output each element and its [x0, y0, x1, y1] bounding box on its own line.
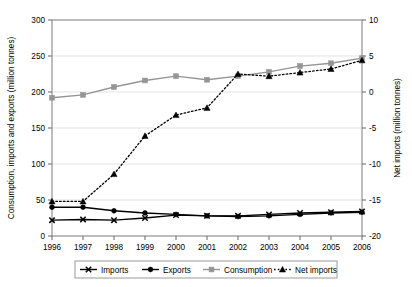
y2-axis-tick-label: 5 [369, 52, 374, 61]
y2-axis-tick-label: -10 [369, 160, 381, 169]
marker-circle [329, 211, 334, 216]
legend-label: Exports [163, 266, 191, 275]
y-axis-tick-label: 0 [40, 232, 45, 241]
x-axis-tick-label: 2003 [260, 243, 279, 252]
marker-circle [360, 210, 365, 215]
y-axis-tick-label: 100 [31, 160, 45, 169]
chart-legend: ImportsExportsConsumptionNet imports [75, 261, 337, 278]
y2-axis-tick-label: 10 [369, 16, 379, 25]
marker-circle [174, 212, 179, 217]
x-axis-tick-label: 2001 [198, 243, 217, 252]
y-axis-tick-label: 150 [31, 124, 45, 133]
line-chart: 050100150200250300-20-15-10-505101996199… [0, 0, 412, 287]
marker-circle [50, 205, 55, 210]
marker-square [50, 95, 55, 100]
x-axis-tick-label: 1999 [136, 243, 155, 252]
y-axis-tick-label: 300 [31, 16, 45, 25]
marker-circle [112, 208, 117, 213]
legend-label: Imports [101, 266, 128, 275]
marker-square [329, 61, 334, 66]
y-axis-tick-label: 50 [36, 196, 46, 205]
x-axis-tick-label: 2004 [291, 243, 310, 252]
marker-square [209, 267, 214, 272]
y-axis-title: Consumption, imports and exports (millio… [7, 36, 16, 219]
chart-container: 050100150200250300-20-15-10-505101996199… [0, 0, 412, 287]
y-axis-tick-label: 200 [31, 88, 45, 97]
y2-axis-tick-label: 0 [369, 88, 374, 97]
marker-circle [205, 213, 210, 218]
x-axis-tick-label: 2002 [229, 243, 248, 252]
marker-circle [298, 212, 303, 217]
x-axis-tick-label: 2006 [353, 243, 372, 252]
marker-square [143, 78, 148, 83]
y2-axis-tick-label: -20 [369, 232, 381, 241]
marker-square [298, 64, 303, 69]
legend-label: Net imports [295, 266, 337, 275]
x-axis-tick-label: 2005 [322, 243, 341, 252]
marker-square [205, 77, 210, 82]
x-axis-tick-label: 1998 [105, 243, 124, 252]
marker-square [81, 92, 86, 97]
x-axis-tick-label: 1997 [74, 243, 93, 252]
marker-circle [81, 205, 86, 210]
marker-square [174, 74, 179, 79]
marker-square [112, 85, 117, 90]
y2-axis-tick-label: -5 [369, 124, 377, 133]
x-axis-tick-label: 1996 [43, 243, 62, 252]
marker-circle [267, 213, 272, 218]
marker-circle [143, 211, 148, 216]
marker-circle [148, 267, 153, 272]
x-axis-tick-label: 2000 [167, 243, 186, 252]
y2-axis-title: Net imports (million tonnes) [393, 78, 402, 178]
y2-axis-tick-label: -15 [369, 196, 381, 205]
legend-label: Consumption [224, 266, 273, 275]
marker-circle [236, 214, 241, 219]
y-axis-tick-label: 250 [31, 52, 45, 61]
